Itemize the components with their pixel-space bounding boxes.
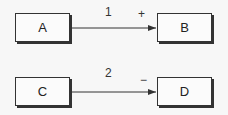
node-a-label: A <box>38 20 47 35</box>
node-d: D <box>157 77 212 106</box>
edge-a-b-label: 1 <box>105 5 112 19</box>
edge-a-b-sign: + <box>138 7 145 21</box>
node-c: C <box>15 77 70 106</box>
node-b-label: B <box>180 20 189 35</box>
edge-c-d-label: 2 <box>105 66 112 80</box>
node-a: A <box>15 13 70 42</box>
node-d-label: D <box>180 84 189 99</box>
node-b: B <box>157 13 212 42</box>
edge-c-d-sign: − <box>140 73 147 87</box>
node-c-label: C <box>38 84 47 99</box>
